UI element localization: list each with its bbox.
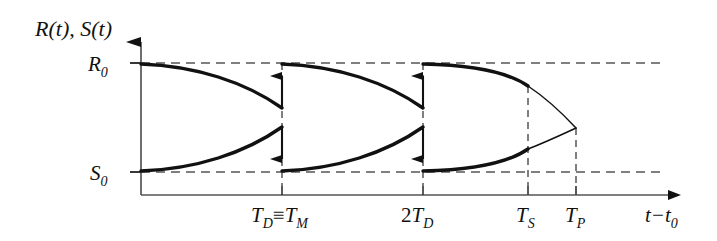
r-curve-cycle-3-thick (423, 64, 528, 86)
curve-group-r (141, 64, 576, 128)
x-axis-label: t−t0 (645, 203, 678, 231)
figure-container: R(t), S(t) R0 S0 TD≡TM 2TD TS TP t−t0 (0, 0, 717, 241)
s-curve-cycle-2 (282, 127, 423, 171)
period-dashed-verticals (282, 63, 576, 195)
labels: R(t), S(t) R0 S0 TD≡TM 2TD TS TP t−t0 (34, 16, 678, 231)
figure-canvas: R(t), S(t) R0 S0 TD≡TM 2TD TS TP t−t0 (0, 0, 717, 241)
x-tick-label-2td: 2TD (401, 203, 433, 231)
curve-group-s (141, 127, 576, 171)
r-curve-cycle-1 (141, 64, 282, 108)
y-axis-label: R(t), S(t) (34, 16, 112, 41)
s-curve-cycle-3-thin (528, 128, 576, 149)
s-curve-cycle-3-thick (423, 149, 528, 171)
r-curve-cycle-2 (282, 64, 423, 108)
x-tick-label-ts: TS (516, 203, 535, 231)
reset-jump-arrows (282, 76, 423, 159)
x-tick-label-td: TD≡TM (251, 203, 309, 231)
r-curve-cycle-3-thin (528, 86, 576, 128)
reference-dashed-lines (141, 63, 666, 172)
y-tick-label-r0: R0 (87, 52, 108, 80)
x-tick-label-tp: TP (565, 203, 586, 231)
y-tick-label-s0: S0 (90, 161, 108, 189)
s-curve-cycle-1 (141, 127, 282, 171)
